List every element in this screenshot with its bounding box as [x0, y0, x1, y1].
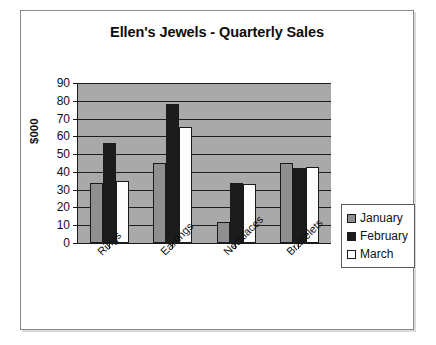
chart-title: Ellen's Jewels - Quarterly Sales — [21, 24, 413, 40]
bar-group — [90, 83, 129, 243]
y-tick-mark — [73, 207, 77, 208]
bar-rings-january[interactable] — [90, 183, 103, 243]
y-tick-label: 40 — [57, 165, 70, 179]
legend-item-february[interactable]: February — [347, 227, 408, 245]
y-tick-label: 90 — [57, 76, 70, 90]
y-tick-mark — [73, 83, 77, 84]
chart-frame: Ellen's Jewels - Quarterly Sales $000 90… — [20, 10, 414, 330]
bar-necklaces-january[interactable] — [217, 222, 230, 243]
legend-swatch-icon — [347, 214, 356, 223]
y-axis-tick-labels: 9080706050403020100 — [21, 83, 77, 243]
y-tick-label: 70 — [57, 112, 70, 126]
x-axis-category-labels: RingsEarringsNecklacesBracelets — [77, 249, 330, 309]
y-tick-label: 50 — [57, 147, 70, 161]
y-tick-label: 80 — [57, 94, 70, 108]
legend-label: January — [360, 211, 403, 225]
y-tick-mark — [73, 119, 77, 120]
y-tick-label: 30 — [57, 183, 70, 197]
y-tick-mark — [73, 225, 77, 226]
legend-swatch-icon — [347, 250, 356, 259]
y-tick-mark — [73, 101, 77, 102]
legend-swatch-icon — [347, 232, 356, 241]
y-tick-label: 10 — [57, 218, 70, 232]
legend-item-march[interactable]: March — [347, 245, 408, 263]
bar-earrings-february[interactable] — [166, 104, 179, 243]
bar-earrings-january[interactable] — [153, 163, 166, 243]
y-tick-mark — [73, 154, 77, 155]
y-tick-label: 60 — [57, 129, 70, 143]
legend-item-january[interactable]: January — [347, 209, 408, 227]
bar-bracelets-january[interactable] — [280, 163, 293, 243]
y-tick-label: 20 — [57, 200, 70, 214]
y-tick-label: 0 — [63, 236, 70, 250]
legend-label: February — [360, 229, 408, 243]
plot-area — [77, 83, 331, 244]
y-tick-mark — [73, 136, 77, 137]
y-tick-mark — [73, 190, 77, 191]
chart-legend: JanuaryFebruaryMarch — [341, 204, 415, 268]
y-tick-mark — [73, 172, 77, 173]
legend-label: March — [360, 247, 393, 261]
